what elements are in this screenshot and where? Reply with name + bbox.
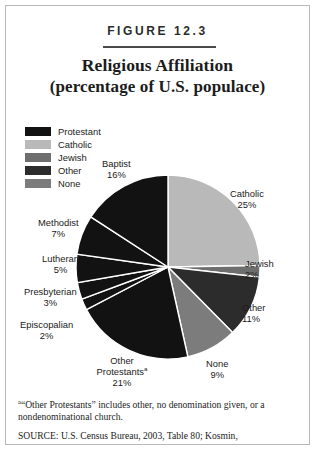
legend-item-catholic: Catholic <box>25 138 101 150</box>
slice-label-jewish: Jewish 2% <box>245 258 274 280</box>
pie-slice-episcopalian <box>82 267 168 310</box>
pie-slice-presbyterian <box>77 267 168 299</box>
chart-title-line2: (percentage of U.S. populace) <box>6 76 309 97</box>
slice-label-other: Other 11% <box>242 302 265 324</box>
slice-label-none: None 9% <box>206 358 228 380</box>
legend-item-other: Other <box>25 164 101 176</box>
slice-label-lutheran-name: Lutheran <box>42 253 79 264</box>
slice-label-catholic: Catholic 25% <box>230 188 264 210</box>
slice-label-other-protestants-pct: 21% <box>90 377 154 388</box>
slice-label-catholic-pct: 25% <box>230 199 264 210</box>
pie-slice-baptist <box>91 175 168 267</box>
slice-label-none-name: None <box>206 358 228 369</box>
slice-label-baptist-name: Baptist <box>102 158 131 169</box>
slice-label-presbyterian-pct: 3% <box>24 297 77 308</box>
slice-label-presbyterian-name: Presbyterian <box>24 286 77 297</box>
legend-swatch-protestant <box>25 127 51 136</box>
footnote-other-protestants: a“Other Protestants” includes other, no … <box>18 399 301 424</box>
slice-label-other-protestants: Other Protestantsa 21% <box>90 355 154 388</box>
legend-label-other: Other <box>58 165 81 176</box>
header-divider <box>103 46 216 48</box>
figure-number-label: FIGURE 12.3 <box>6 24 309 38</box>
legend-label-catholic: Catholic <box>58 139 92 150</box>
footnote-marker-inline: a <box>144 365 147 372</box>
slice-label-jewish-pct: 2% <box>245 269 274 280</box>
slice-label-other-protestants-name: Other <box>110 355 133 366</box>
slice-label-other-protestants-name2: Protestantsa <box>90 366 154 377</box>
pie-slice-other-protestants <box>86 267 187 359</box>
legend-label-jewish: Jewish <box>58 152 87 163</box>
slice-label-episcopalian-name: Episcopalian <box>20 319 73 330</box>
figure-container: FIGURE 12.3 Religious Affiliation (perce… <box>5 5 310 445</box>
chart-title-line1: Religious Affiliation <box>82 55 233 75</box>
legend-label-none: None <box>58 178 80 189</box>
slice-label-episcopalian-pct: 2% <box>20 330 73 341</box>
legend-swatch-other <box>25 166 51 175</box>
slice-label-jewish-name: Jewish <box>245 258 274 269</box>
legend-item-protestant: Protestant <box>25 125 101 137</box>
chart-title: Religious Affiliation (percentage of U.S… <box>6 55 309 97</box>
slice-label-other-pct: 11% <box>242 313 265 324</box>
legend-label-protestant: Protestant <box>58 126 101 137</box>
pie-slice-lutheran <box>76 254 168 282</box>
legend-swatch-jewish <box>25 153 51 162</box>
slice-label-baptist: Baptist 16% <box>102 158 131 180</box>
slice-label-methodist-pct: 7% <box>38 228 79 239</box>
pie-slice-none <box>168 267 233 357</box>
footnote-source: SOURCE: U.S. Census Bureau, 2003, Table … <box>18 430 301 442</box>
slice-label-episcopalian: Episcopalian 2% <box>20 319 73 341</box>
slice-label-baptist-pct: 16% <box>102 169 131 180</box>
legend-swatch-none <box>25 179 51 188</box>
legend-swatch-catholic <box>25 140 51 149</box>
slice-label-methodist-name: Methodist <box>38 217 79 228</box>
slice-label-methodist: Methodist 7% <box>38 217 79 239</box>
slice-label-lutheran-pct: 5% <box>42 264 79 275</box>
slice-label-none-pct: 9% <box>206 369 228 380</box>
slice-label-other-name: Other <box>242 302 265 313</box>
pie-slice-methodist <box>77 217 168 267</box>
footnote-other-protestants-text: “Other Protestants” includes other, no d… <box>18 399 265 422</box>
chart-legend: Protestant Catholic Jewish Other None <box>25 125 101 190</box>
legend-item-none: None <box>25 177 101 189</box>
footnotes-block: a“Other Protestants” includes other, no … <box>18 399 301 442</box>
legend-item-jewish: Jewish <box>25 151 101 163</box>
slice-label-lutheran: Lutheran 5% <box>42 253 79 275</box>
slice-label-catholic-name: Catholic <box>230 188 264 199</box>
slice-label-presbyterian: Presbyterian 3% <box>24 286 77 308</box>
